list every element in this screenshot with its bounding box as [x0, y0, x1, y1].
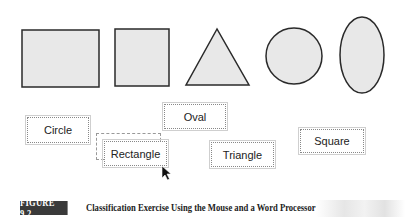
mouse-pointer-icon — [161, 165, 173, 181]
label-square[interactable]: Square — [300, 129, 364, 153]
label-rectangle[interactable]: Rectangle — [104, 141, 167, 166]
oval-shape[interactable] — [340, 17, 384, 93]
figure-title: Classification Exercise Using the Mouse … — [86, 201, 316, 215]
label-triangle[interactable]: Triangle — [211, 142, 274, 167]
figure-caption: FIGURE 9.2 Classification Exercise Using… — [0, 200, 405, 217]
label-oval[interactable]: Oval — [164, 104, 226, 129]
shapes-canvas — [0, 0, 405, 100]
figure-number-badge: FIGURE 9.2 — [20, 201, 68, 215]
rectangle-shape[interactable] — [22, 30, 99, 87]
circle-shape[interactable] — [266, 28, 322, 84]
square-shape[interactable] — [115, 29, 169, 86]
triangle-shape[interactable] — [186, 29, 249, 85]
label-circle[interactable]: Circle — [27, 117, 89, 143]
